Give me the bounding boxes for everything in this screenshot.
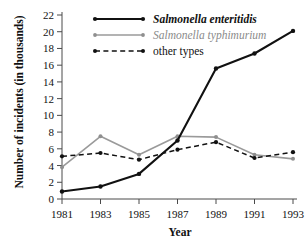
data-point <box>60 165 64 169</box>
data-point <box>60 154 64 158</box>
y-tick-label: 22 <box>43 9 54 21</box>
data-point <box>137 153 141 157</box>
data-point <box>214 135 218 139</box>
legend-item-typhimurium: Salmonella typhimurium <box>92 27 266 43</box>
data-point <box>214 66 218 70</box>
x-tick-label: 1993 <box>282 208 305 220</box>
legend-label-other-types: other types <box>153 45 204 57</box>
data-point <box>175 138 179 142</box>
y-tick-label: 16 <box>43 59 55 71</box>
data-point <box>137 158 141 162</box>
legend-label-typhimurium: Salmonella typhimurium <box>153 29 266 41</box>
legend-swatch-other-types <box>92 45 146 57</box>
legend-item-other-types: other types <box>92 43 266 59</box>
x-tick-label: 1991 <box>244 208 266 220</box>
data-point <box>60 189 64 193</box>
y-tick-label: 0 <box>49 193 55 205</box>
series-other-types <box>60 140 295 162</box>
chart-figure: Number of incidents (in thousands) Year … <box>0 0 306 248</box>
y-tick-label: 6 <box>49 143 55 155</box>
x-tick-label: 1989 <box>205 208 228 220</box>
data-point <box>137 172 141 176</box>
data-point <box>99 134 103 138</box>
y-tick-label: 10 <box>43 109 55 121</box>
x-tick-label: 1983 <box>90 208 113 220</box>
y-tick-label: 12 <box>43 93 54 105</box>
legend-label-enteritidis: Salmonella enteritidis <box>153 13 257 25</box>
data-point <box>252 156 256 160</box>
chart-legend: Salmonella enteritidis Salmonella typhim… <box>92 11 266 59</box>
y-tick-label: 14 <box>43 76 55 88</box>
data-point <box>175 148 179 152</box>
y-tick-label: 8 <box>49 126 55 138</box>
y-tick-label: 18 <box>43 42 55 54</box>
data-point <box>291 157 295 161</box>
y-axis-ticks: 0246810121416182022 <box>43 9 62 205</box>
x-axis-ticks: 1981198319851987198919911993 <box>51 199 305 220</box>
legend-item-enteritidis: Salmonella enteritidis <box>92 11 266 27</box>
data-point <box>98 151 102 155</box>
y-tick-label: 2 <box>49 176 55 188</box>
y-tick-label: 4 <box>49 160 55 172</box>
data-point <box>291 150 295 154</box>
data-point <box>98 184 102 188</box>
y-tick-label: 20 <box>43 26 55 38</box>
data-point <box>291 29 295 33</box>
x-tick-label: 1981 <box>51 208 73 220</box>
x-tick-label: 1985 <box>128 208 151 220</box>
legend-swatch-enteritidis <box>92 13 146 25</box>
legend-swatch-typhimurium <box>92 29 146 41</box>
data-point <box>214 140 218 144</box>
x-tick-label: 1987 <box>167 208 190 220</box>
